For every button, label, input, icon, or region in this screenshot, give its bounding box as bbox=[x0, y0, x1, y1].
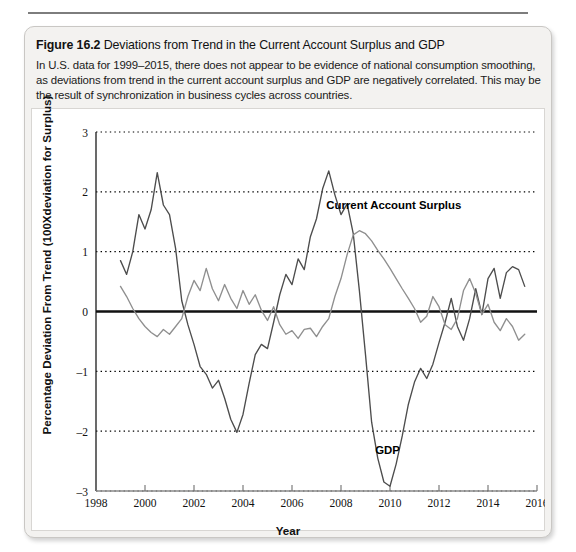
y-tick-label: –2 bbox=[76, 426, 89, 438]
page-divider bbox=[28, 12, 528, 14]
x-tick-label: 1998 bbox=[85, 497, 108, 509]
x-tick-label: 2016 bbox=[526, 497, 546, 509]
y-tick-label: 3 bbox=[82, 127, 88, 139]
y-tick-label: 0 bbox=[82, 306, 88, 318]
figure-title-text: Deviations from Trend in the Current Acc… bbox=[104, 38, 445, 52]
series-annotation: GDP bbox=[375, 444, 400, 456]
series-line-gdp bbox=[121, 171, 525, 486]
x-tick-label: 2004 bbox=[232, 497, 255, 509]
x-tick-label: 2012 bbox=[428, 497, 451, 509]
y-tick-label: –1 bbox=[76, 366, 89, 378]
figure-header: Figure 16.2 Deviations from Trend in the… bbox=[36, 38, 542, 103]
x-tick-label: 2002 bbox=[183, 497, 206, 509]
x-tick-label: 2014 bbox=[477, 497, 500, 509]
series-line-current-account-surplus bbox=[121, 231, 525, 341]
figure-page: Figure 16.2 Deviations from Trend in the… bbox=[0, 0, 576, 552]
x-axis-title: Year bbox=[0, 524, 576, 537]
y-axis-title: Percentage Deviation From Trend (100Xdev… bbox=[40, 135, 53, 435]
x-tick-label: 2006 bbox=[281, 497, 304, 509]
series-annotation: Current Account Surplus bbox=[326, 199, 461, 211]
x-tick-label: 2010 bbox=[379, 497, 402, 509]
x-tick-label: 2000 bbox=[134, 497, 157, 509]
x-tick-label: 2008 bbox=[330, 497, 353, 509]
figure-caption: In U.S. data for 1999–2015, there does n… bbox=[36, 58, 542, 103]
y-tick-label: 2 bbox=[82, 186, 88, 198]
figure-title: Figure 16.2 Deviations from Trend in the… bbox=[36, 38, 542, 54]
line-chart: –3–2–10123199820002002200420062008201020… bbox=[31, 108, 545, 531]
y-tick-label: 1 bbox=[82, 246, 88, 258]
figure-number: Figure 16.2 bbox=[36, 38, 100, 52]
y-tick-label: –3 bbox=[76, 486, 89, 498]
